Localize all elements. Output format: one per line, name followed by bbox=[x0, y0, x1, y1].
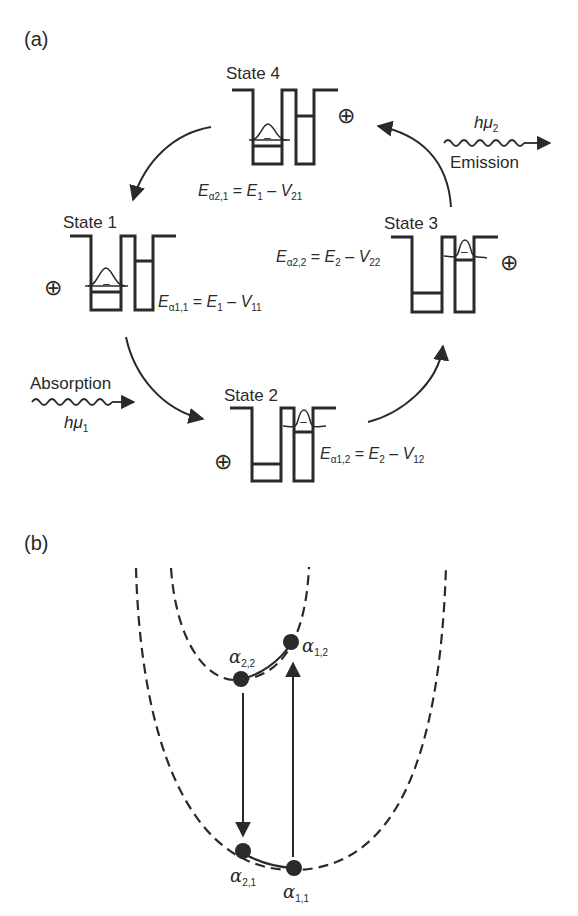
hole-plus-icon: ⊕ bbox=[214, 449, 232, 474]
emission-label: Emission bbox=[450, 153, 519, 172]
potential-curves bbox=[136, 566, 446, 870]
point-alpha-2-1 bbox=[235, 843, 251, 859]
svg-text:–: – bbox=[103, 277, 110, 291]
emission-photon: hμ2 Emission bbox=[444, 113, 550, 172]
svg-text:–: – bbox=[300, 415, 307, 429]
wavy-photon-line bbox=[444, 140, 524, 146]
absorption-label: Absorption bbox=[30, 374, 111, 393]
state-4-label: State 4 bbox=[226, 64, 280, 83]
state-2: State 2 – ⊕ bbox=[214, 386, 336, 481]
panel-b-label: (b) bbox=[24, 532, 48, 554]
point-alpha-2-2 bbox=[233, 671, 249, 687]
hole-plus-icon: ⊕ bbox=[500, 250, 518, 275]
state-3: State 3 – ⊕ bbox=[384, 214, 518, 312]
arrow-state1-to-state2 bbox=[126, 337, 203, 419]
state-4: State 4 – ⊕ bbox=[226, 64, 355, 164]
label-alpha-2-1: α2,1 bbox=[230, 865, 256, 888]
hole-plus-icon: ⊕ bbox=[44, 275, 62, 300]
label-alpha-1-2: α1,2 bbox=[302, 635, 328, 658]
svg-text:–: – bbox=[461, 245, 468, 259]
label-alpha-2-2: α2,2 bbox=[229, 646, 255, 669]
state-2-label: State 2 bbox=[224, 386, 278, 405]
label-alpha-1-1: α1,1 bbox=[283, 881, 309, 904]
point-alpha-1-1 bbox=[286, 860, 302, 876]
equation-e-alpha-1-2: Eα1,2 = E2 – V12 bbox=[320, 445, 425, 465]
arrow-state3-to-state4 bbox=[378, 126, 451, 207]
state-4-double-well bbox=[232, 90, 338, 164]
arrow-state2-to-state3 bbox=[368, 346, 443, 422]
hole-plus-icon: ⊕ bbox=[337, 103, 355, 128]
equation-e-alpha-1-1: Eα1,1 = E1 – V11 bbox=[158, 293, 262, 313]
photon-energy-2: hμ2 bbox=[474, 113, 499, 134]
ground-state-curve bbox=[136, 566, 446, 870]
equation-e-alpha-2-1: Eα2,1 = E1 – V21 bbox=[198, 182, 303, 202]
diagram-canvas: (a) State 4 – ⊕ Eα2,1 = E1 – V21 State 1… bbox=[0, 0, 578, 916]
panel-a-label: (a) bbox=[24, 28, 48, 50]
state-1: State 1 – ⊕ bbox=[44, 213, 176, 310]
photon-energy-1: hμ1 bbox=[64, 413, 89, 434]
absorption-photon: Absorption hμ1 bbox=[30, 374, 134, 434]
electron-minus: – bbox=[264, 131, 271, 145]
state-1-label: State 1 bbox=[63, 213, 117, 232]
state-3-label: State 3 bbox=[384, 214, 438, 233]
equation-e-alpha-2-2: Eα2,2 = E2 – V22 bbox=[276, 248, 381, 268]
wavy-photon-line bbox=[32, 399, 112, 405]
point-alpha-1-2 bbox=[283, 634, 299, 650]
state-3-double-well bbox=[391, 237, 498, 312]
